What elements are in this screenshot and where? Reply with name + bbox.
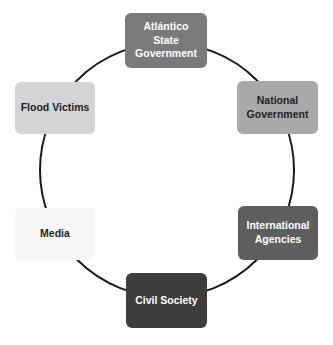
- node-label-line: Government: [247, 108, 309, 122]
- node-label-line: International: [246, 219, 309, 233]
- node-civil-society: Civil Society: [126, 273, 207, 328]
- node-national-government: National Government: [237, 81, 318, 134]
- node-flood-victims: Flood Victims: [15, 82, 95, 134]
- node-label-line: Flood Victims: [21, 101, 90, 115]
- node-label-line: Agencies: [246, 233, 309, 247]
- node-label-line: Media: [40, 227, 70, 241]
- node-label-line: Civil Society: [135, 294, 197, 308]
- node-label-line: Government: [135, 47, 197, 61]
- node-international-agencies: International Agencies: [238, 206, 318, 260]
- node-atlantico-state-government: Atlántico State Government: [125, 13, 207, 68]
- node-media: Media: [15, 208, 95, 260]
- node-label-line: Atlántico: [135, 20, 197, 34]
- node-label-line: National: [247, 94, 309, 108]
- node-label-line: State: [135, 34, 197, 48]
